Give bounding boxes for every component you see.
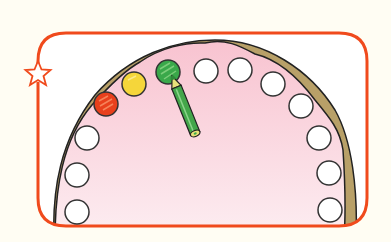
tooth-8[interactable] [228,58,252,82]
tooth-3[interactable] [75,126,99,150]
tooth-9[interactable] [261,72,285,96]
tooth-4-red[interactable] [94,92,118,116]
tooth-13[interactable] [318,198,342,222]
dental-arch-illustration [0,0,391,242]
tooth-7[interactable] [194,59,218,83]
tooth-5-yellow[interactable] [122,72,146,96]
tooth-10[interactable] [289,94,313,118]
tooth-11[interactable] [307,126,331,150]
tooth-12[interactable] [317,161,341,185]
tooth-2[interactable] [65,163,89,187]
tooth-1[interactable] [65,200,89,224]
